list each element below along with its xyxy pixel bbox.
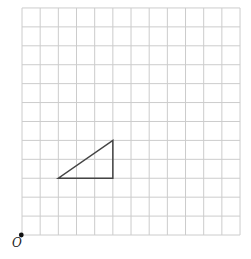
coordinate-grid-diagram: O bbox=[0, 0, 251, 259]
grid-lines bbox=[22, 8, 240, 235]
origin-label: O bbox=[12, 236, 22, 250]
